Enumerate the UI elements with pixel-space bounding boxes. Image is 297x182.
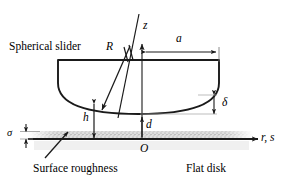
diagram-svg (0, 0, 297, 182)
label-radius-R: R (106, 41, 113, 53)
surface-roughness-band (28, 131, 253, 139)
label-dimension-h: h (83, 112, 89, 124)
label-spherical-slider: Spherical slider (9, 41, 81, 53)
figure-canvas: Spherical slider R z a δ h d σ O r, s Su… (0, 0, 297, 182)
label-surface-roughness: Surface roughness (33, 163, 118, 175)
spherical-slider-body (58, 60, 219, 114)
label-sigma: σ (7, 128, 12, 139)
label-origin: O (140, 143, 148, 155)
label-flat-disk: Flat disk (186, 163, 226, 175)
label-dimension-d: d (146, 119, 152, 131)
label-dimension-delta: δ (222, 97, 227, 109)
label-radial-axis: r, s (261, 132, 274, 144)
label-dimension-a: a (176, 33, 182, 45)
label-z-axis: z (143, 20, 147, 32)
